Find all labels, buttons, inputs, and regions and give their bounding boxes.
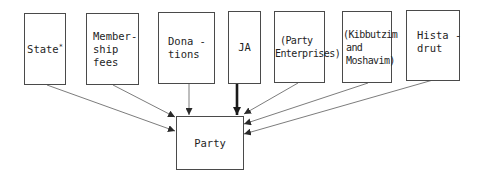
source-box-histadrut: Hista - drut [406,10,460,81]
kibbutzim-label-line-1: (Kibbutzim [343,28,397,41]
histadrut-label-line-1: Hista - [417,29,461,42]
party-label: Party [194,137,226,150]
source-box-membership-fees: Member- ship fees [86,13,139,85]
source-box-ja: JA [228,11,261,84]
membership-label-line-3: fees [93,56,118,69]
donations-label-line-2: tions [168,48,200,61]
kibbutzim-label-line-2: and [343,41,362,54]
edge-state-party [47,85,175,131]
source-box-kibbutzim-moshavim: (Kibbutzim and Moshavim) [342,11,392,83]
histadrut-label-line-2: drut [417,42,442,55]
edge-histadrut-party [244,80,433,134]
party-enterprises-label-line-2: Enterprises) [275,47,340,60]
asterisk-marker: * [59,43,63,51]
source-box-donations: Dona - tions [158,12,215,84]
source-box-state: State* [24,13,66,85]
ja-label: JA [238,41,251,54]
edge-party-enterprises-party [244,83,298,114]
kibbutzim-label-line-3: Moshavim) [343,54,395,67]
membership-label-line-1: Member- [93,30,137,43]
party-enterprises-label-line-1: (Party [275,34,313,47]
target-box-party: Party [176,116,244,170]
donations-label-line-1: Dona - [168,35,206,48]
state-label: State [27,43,59,55]
membership-label-line-2: ship [93,43,118,56]
source-box-party-enterprises: (Party Enterprises) [274,11,325,83]
